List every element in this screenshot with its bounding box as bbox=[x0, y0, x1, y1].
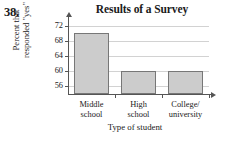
category-label-line-2: university bbox=[162, 110, 209, 120]
bar bbox=[168, 71, 203, 94]
x-axis-title: Type of student bbox=[60, 123, 210, 132]
x-axis-tick-mark bbox=[115, 94, 116, 98]
y-axis-tick-mark bbox=[65, 41, 69, 42]
plot-area: 5660646872 MiddleschoolHighschoolCollege… bbox=[68, 22, 214, 94]
y-axis-tick-label: 72 bbox=[55, 22, 63, 30]
y-axis-tick-label: 60 bbox=[55, 67, 63, 75]
category-label: Highschool bbox=[115, 100, 162, 120]
bar bbox=[74, 33, 109, 94]
y-axis-tick-mark bbox=[65, 71, 69, 72]
x-axis-tick-mark bbox=[209, 94, 210, 98]
x-axis-arrowhead-icon bbox=[211, 92, 216, 98]
y-axis-tick-mark bbox=[65, 56, 69, 57]
y-axis-tick-mark bbox=[65, 86, 69, 87]
y-axis-tick-label: 56 bbox=[55, 82, 63, 90]
survey-bar-chart-figure: 38. Results of a Survey Percent that res… bbox=[0, 0, 229, 142]
y-axis-line bbox=[68, 16, 69, 94]
y-axis-tick-mark bbox=[65, 26, 69, 27]
y-axis-arrowhead-icon bbox=[66, 12, 72, 17]
category-label-line-1: High bbox=[115, 100, 162, 110]
category-label: Middleschool bbox=[68, 100, 115, 120]
y-axis-tick-label: 68 bbox=[55, 37, 63, 45]
category-label-line-2: school bbox=[115, 110, 162, 120]
category-label: College/university bbox=[162, 100, 209, 120]
gridline bbox=[68, 26, 209, 27]
category-label-line-1: Middle bbox=[68, 100, 115, 110]
category-label-line-2: school bbox=[68, 110, 115, 120]
chart-title: Results of a Survey bbox=[62, 3, 222, 15]
x-axis-tick-mark bbox=[162, 94, 163, 98]
y-axis-title: Percent that responded "yes" bbox=[11, 0, 33, 68]
y-axis-tick-label: 64 bbox=[55, 52, 63, 60]
category-label-line-1: College/ bbox=[162, 100, 209, 110]
bar bbox=[121, 71, 156, 94]
x-axis-line bbox=[68, 94, 211, 95]
y-axis-title-line-2: responded "yes" bbox=[22, 2, 32, 58]
